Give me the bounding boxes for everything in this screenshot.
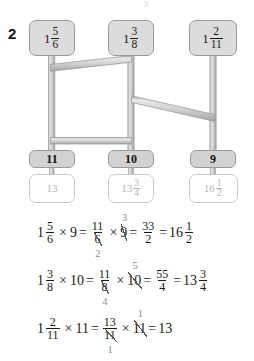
answer-node-3-numerator: 1 bbox=[216, 179, 223, 189]
equation-2-result-num: 3 bbox=[199, 268, 207, 280]
top-node-3-denominator: 11 bbox=[210, 38, 223, 51]
answer-node-2-whole: 13 bbox=[121, 183, 132, 194]
equation-2-result-whole: 13 bbox=[183, 273, 197, 289]
worksheet-page: 3 2 bbox=[0, 0, 254, 361]
equation-2-equals-1: = bbox=[86, 273, 94, 289]
equation-2-times-1: × bbox=[59, 273, 67, 289]
equation-1-factor-1: 9 bbox=[70, 225, 77, 241]
equation-1-improper-den: 6 bbox=[94, 232, 102, 245]
equation-1-improper-num: 11 bbox=[91, 220, 105, 232]
equation-2-improper-num: 11 bbox=[98, 268, 112, 280]
top-node-1-numerator: 5 bbox=[51, 26, 59, 38]
equation-2-improper-den-text: 8 bbox=[102, 280, 108, 294]
top-node-3-value: 1 2 11 bbox=[202, 26, 224, 50]
answer-node-3-fraction: 1 2 bbox=[216, 179, 223, 199]
top-node-2: 1 3 8 bbox=[108, 20, 154, 56]
equations-list: 1 5 6 × 9 = 11 6 bbox=[0, 214, 254, 358]
pipe-cross-lower-left bbox=[51, 138, 132, 144]
equation-1-product-den: 2 bbox=[144, 232, 152, 245]
equation-3-den-cancel: 1 bbox=[107, 344, 112, 355]
top-node-1-value: 1 5 6 bbox=[44, 26, 60, 50]
equation-2: 1 3 8 × 10 = 11 8 bbox=[0, 262, 254, 310]
pipe-cross-right bbox=[132, 96, 215, 122]
mid-node-3: 9 bbox=[190, 150, 236, 168]
equation-1-factor-2: 9 bbox=[120, 225, 127, 241]
equation-1-equals-1: = bbox=[79, 225, 87, 241]
equation-2-product: 55 4 bbox=[155, 268, 169, 293]
top-node-2-value: 1 3 8 bbox=[123, 26, 139, 50]
equation-3-improper-den-text: 11 bbox=[104, 328, 116, 342]
equation-1-improper: 11 6 bbox=[91, 220, 105, 245]
equation-3-factor2-cancel: 1 bbox=[138, 308, 143, 319]
equation-3: 1 2 11 × 11 = 13 11 bbox=[0, 310, 254, 358]
equation-2-mixed: 1 3 8 bbox=[37, 268, 56, 293]
mid-node-2: 10 bbox=[108, 150, 154, 168]
equation-3-improper: 13 11 bbox=[103, 316, 117, 341]
equation-3-improper-group: 13 11 1 bbox=[101, 316, 119, 341]
equation-3-improper-den: 11 bbox=[103, 328, 117, 341]
mid-node-1: 11 bbox=[29, 150, 75, 168]
answer-node-2-denominator: 4 bbox=[133, 188, 140, 199]
equation-2-product-num: 55 bbox=[155, 268, 169, 280]
mid-node-1-label: 11 bbox=[46, 153, 57, 165]
answer-node-3-value: 16 1 2 bbox=[204, 179, 224, 199]
equation-1: 1 5 6 × 9 = 11 6 bbox=[0, 214, 254, 262]
equation-1-improper-den-text: 6 bbox=[95, 232, 101, 246]
equation-1-result: 16 1 2 bbox=[169, 220, 195, 245]
equation-3-factor2-group: 11 1 bbox=[133, 321, 146, 337]
top-node-3-whole: 1 bbox=[202, 32, 209, 45]
top-node-1-denominator: 6 bbox=[51, 38, 59, 51]
equation-2-result: 13 3 4 bbox=[183, 268, 209, 293]
equation-3-equals-2: = bbox=[148, 321, 156, 337]
equation-2-improper-group: 11 8 4 bbox=[96, 268, 114, 293]
equation-3-mixed-whole: 1 bbox=[37, 321, 44, 337]
pipe-right-vertical bbox=[210, 55, 216, 151]
equation-2-mixed-whole: 1 bbox=[37, 273, 44, 289]
answer-node-3[interactable]: 16 1 2 bbox=[189, 174, 238, 203]
top-node-2-fraction: 3 8 bbox=[130, 26, 138, 50]
equation-1-mixed-whole: 1 bbox=[37, 225, 44, 241]
equation-3-result: 13 bbox=[158, 321, 172, 337]
equation-3-equals-1: = bbox=[91, 321, 99, 337]
pipe-cross-upper bbox=[51, 56, 132, 72]
equation-1-den-cancel: 2 bbox=[95, 248, 100, 259]
top-node-1: 1 5 6 bbox=[29, 20, 75, 56]
equation-1-mixed: 1 5 6 bbox=[37, 220, 56, 245]
equation-2-improper: 11 8 bbox=[98, 268, 112, 293]
equation-3-mixed-fraction: 2 11 bbox=[46, 316, 60, 341]
equation-2-factor-1: 10 bbox=[70, 273, 84, 289]
equation-1-equals-2: = bbox=[129, 225, 137, 241]
equation-1-result-den: 2 bbox=[185, 232, 193, 245]
answer-node-1[interactable]: 13 bbox=[29, 174, 75, 203]
equation-1-product-num: 33 bbox=[141, 220, 155, 232]
equation-2-factor-2: 10 bbox=[127, 273, 141, 289]
answer-node-1-whole: 13 bbox=[47, 183, 58, 194]
mid-node-2-label: 10 bbox=[125, 153, 137, 165]
equation-2-factor2-group: 10 5 bbox=[127, 273, 141, 289]
top-node-3-numerator: 2 bbox=[212, 26, 220, 38]
equation-3-factor-1: 11 bbox=[75, 321, 88, 337]
equation-1-factor-2-text: 9 bbox=[120, 225, 127, 241]
top-node-2-denominator: 8 bbox=[130, 38, 138, 51]
equation-1-product: 33 2 bbox=[141, 220, 155, 245]
equation-3-improper-num: 13 bbox=[103, 316, 117, 328]
equation-1-factor2-group: 9 3 bbox=[120, 225, 127, 241]
equation-1-result-num: 1 bbox=[185, 220, 193, 232]
equation-1-result-fraction: 1 2 bbox=[185, 220, 193, 245]
equation-3-times-1: × bbox=[65, 321, 73, 337]
top-node-3: 1 2 11 bbox=[189, 20, 237, 56]
equation-1-result-whole: 16 bbox=[169, 225, 183, 241]
top-node-2-numerator: 3 bbox=[130, 26, 138, 38]
answer-node-3-denominator: 2 bbox=[216, 188, 223, 199]
equation-2-result-fraction: 3 4 bbox=[199, 268, 207, 293]
equation-3-factor-2-text: 11 bbox=[133, 321, 146, 337]
top-node-3-fraction: 2 11 bbox=[210, 26, 223, 50]
equation-2-mixed-den: 8 bbox=[46, 280, 54, 293]
equation-2-product-den: 4 bbox=[158, 280, 166, 293]
equation-2-mixed-num: 3 bbox=[46, 268, 54, 280]
answer-node-2-value: 13 3 4 bbox=[121, 179, 141, 199]
equation-1-mixed-den: 6 bbox=[46, 232, 54, 245]
answer-node-2[interactable]: 13 3 4 bbox=[108, 174, 154, 203]
answer-node-3-whole: 16 bbox=[204, 183, 215, 194]
answer-node-2-fraction: 3 4 bbox=[133, 179, 140, 199]
